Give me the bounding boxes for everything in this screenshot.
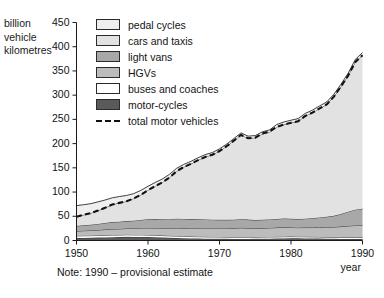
legend-swatch-light-vans (96, 51, 120, 62)
legend-item[interactable]: light vans (96, 49, 218, 64)
legend-dashed-line-total-motor-vehicles (96, 115, 120, 126)
y-tick-label: 250 (44, 112, 70, 124)
y-tick-label: 0 (44, 234, 70, 246)
y-tick-label: 150 (44, 161, 70, 173)
legend-item[interactable]: cars and taxis (96, 33, 218, 48)
legend-item[interactable]: total motor vehicles (96, 113, 218, 128)
legend-label: buses and coaches (128, 83, 218, 95)
x-tick-label: 1970 (200, 247, 240, 259)
legend-item[interactable]: buses and coaches (96, 81, 218, 96)
legend-swatch-buses-and-coaches (96, 83, 120, 94)
chart-figure: billion vehicle kilometres pedal cycles … (0, 0, 384, 298)
x-tick-label: 1950 (57, 247, 97, 259)
legend-item[interactable]: pedal cycles (96, 17, 218, 32)
legend-item[interactable]: motor-cycles (96, 97, 218, 112)
legend-swatch-hgvs (96, 67, 120, 78)
legend-swatch-motor-cycles (96, 99, 120, 110)
legend-label: HGVs (128, 67, 156, 79)
chart-note: Note: 1990 – provisional estimate (57, 266, 213, 278)
legend-label: light vans (128, 51, 172, 63)
legend-swatch-pedal-cycles (96, 19, 120, 30)
y-tick-label: 400 (44, 40, 70, 52)
x-tick-label: 1990 (343, 247, 383, 259)
legend-label: motor-cycles (128, 99, 188, 111)
x-axis-title: year (341, 261, 361, 273)
x-tick-label: 1960 (128, 247, 168, 259)
x-tick-label: 1980 (271, 247, 311, 259)
legend-item[interactable]: HGVs (96, 65, 218, 80)
legend-label: pedal cycles (128, 19, 186, 31)
legend-label: total motor vehicles (128, 115, 218, 127)
y-tick-label: 450 (44, 16, 70, 28)
y-tick-label: 50 (44, 209, 70, 221)
chart-legend: pedal cycles cars and taxis light vans H… (96, 17, 218, 128)
y-tick-label: 350 (44, 64, 70, 76)
y-tick-label: 200 (44, 137, 70, 149)
y-tick-label: 300 (44, 88, 70, 100)
legend-label: cars and taxis (128, 35, 193, 47)
y-tick-label: 100 (44, 185, 70, 197)
legend-swatch-cars-and-taxis (96, 35, 120, 46)
